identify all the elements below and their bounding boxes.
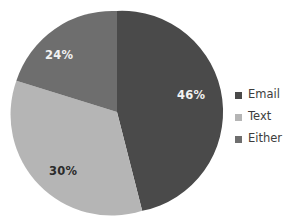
pie-slice-label-either: 24%: [45, 50, 73, 62]
chart-legend: Email Text Either: [235, 84, 301, 150]
legend-item-email: Email: [235, 84, 301, 106]
legend-swatch-email: [235, 92, 242, 99]
pie-slice-label-text: 30%: [49, 166, 77, 178]
legend-item-text: Text: [235, 106, 301, 128]
pie-chart-figure: 46% 30% 24% Email Text Either: [0, 0, 301, 223]
legend-label-email: Email: [248, 89, 280, 101]
pie-slice-label-email: 46%: [177, 90, 205, 102]
legend-label-text: Text: [248, 111, 271, 123]
legend-label-either: Either: [248, 133, 282, 145]
legend-swatch-either: [235, 136, 242, 143]
legend-item-either: Either: [235, 128, 301, 150]
legend-swatch-text: [235, 114, 242, 121]
